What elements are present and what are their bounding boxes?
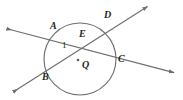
point-label-d: D — [104, 10, 111, 20]
point-label-b: B — [42, 72, 49, 82]
center-point-dot — [77, 59, 80, 62]
secant-line-ac — [7, 29, 174, 73]
point-label-a: A — [50, 21, 57, 31]
point-label-c: C — [118, 54, 125, 64]
figure-canvas — [0, 0, 183, 100]
geometry-figure: A D E 1 Q C B — [0, 0, 183, 100]
secant-line-bd — [14, 7, 148, 92]
center-label-q: Q — [82, 60, 89, 70]
angle-label-1: 1 — [62, 41, 67, 50]
point-label-e: E — [79, 29, 86, 39]
